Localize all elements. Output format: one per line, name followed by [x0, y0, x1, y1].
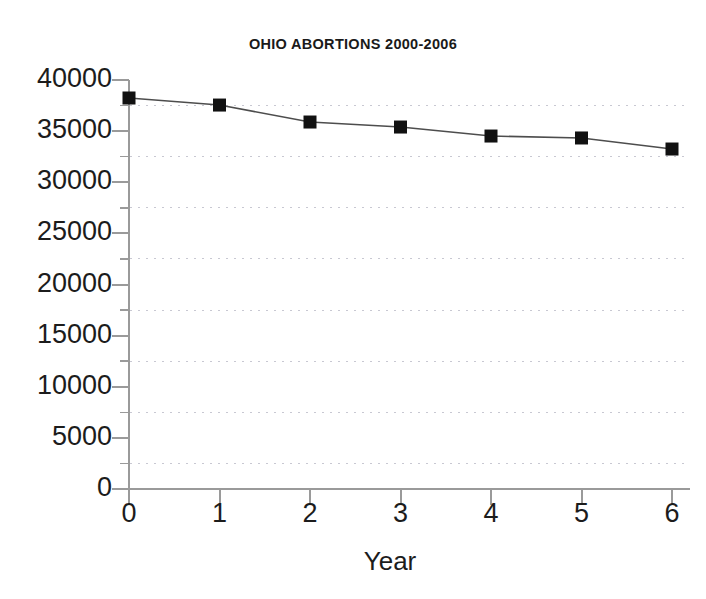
x-axis-tick-label: 6 — [642, 500, 702, 527]
chart-container: OHIO ABORTIONS 2000-2006 400003500030000… — [0, 0, 706, 599]
x-axis-tick-label: 1 — [190, 500, 250, 527]
x-axis-tick-label: 5 — [552, 500, 612, 527]
x-axis-title: Year — [100, 546, 680, 577]
x-axis-tick-label: 4 — [461, 500, 521, 527]
x-axis-tick-label: 3 — [371, 500, 431, 527]
x-axis-tick-label: 2 — [280, 500, 340, 527]
x-axis-tick-labels: 0123456 — [0, 0, 706, 599]
x-axis-tick-label: 0 — [99, 500, 159, 527]
